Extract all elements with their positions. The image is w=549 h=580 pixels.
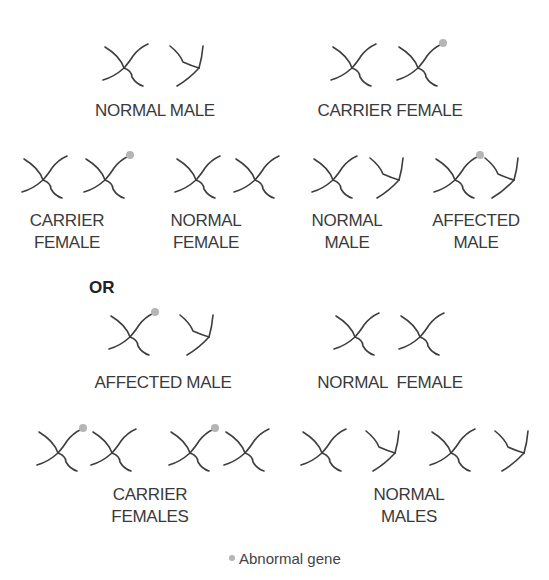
chromatid-arm: [399, 337, 420, 349]
label-line: AFFECTED MALE: [95, 373, 232, 392]
chromatid-arm: [395, 431, 399, 453]
chromatid-arm: [199, 46, 203, 68]
chromatid-arm: [334, 337, 355, 349]
chromatid-arm: [434, 180, 455, 192]
chromatid-arm: [418, 68, 437, 86]
chromatid-arm: [43, 156, 67, 180]
abnormal-gene-marker: [126, 151, 134, 159]
chromosome-group-top-right: [331, 39, 447, 86]
chromosome-group-row2-1: [22, 151, 134, 198]
x-chromosome: [175, 156, 220, 198]
label-carrier-female-parent: CARRIER FEMALE: [317, 100, 462, 122]
chromatid-arm: [109, 337, 130, 349]
abnormal-gene-dot-icon: [229, 555, 235, 561]
label-normal-male-child: NORMAL MALE: [312, 210, 383, 254]
abnormal-gene-marker: [151, 308, 159, 316]
label-line: CARRIER: [111, 484, 188, 506]
chromatid-arm: [355, 313, 379, 337]
x-chromosome: [334, 313, 379, 355]
or-label: OR: [89, 278, 115, 298]
label-normal-males: NORMAL MALES: [374, 484, 445, 528]
chromatid-arm: [514, 158, 518, 180]
label-affected-male-parent: AFFECTED MALE: [95, 372, 232, 394]
chromatid-arm: [303, 432, 322, 453]
chromatid-arm: [124, 68, 143, 86]
x-chromosome-abnormal: [84, 151, 134, 198]
chromatid-arm: [130, 337, 149, 355]
chromosome-group-row2-4: [434, 151, 518, 198]
label-affected-male-child: AFFECTED MALE: [432, 210, 519, 254]
x-chromosome-abnormal: [434, 151, 484, 198]
inheritance-diagram: [0, 0, 549, 580]
x-chromosome-abnormal: [397, 39, 447, 86]
x-chromosome: [312, 156, 357, 198]
y-chromosome: [366, 431, 399, 471]
x-chromosome-abnormal: [37, 424, 87, 471]
chromatid-arm: [103, 68, 124, 80]
chromatid-arm: [355, 337, 374, 355]
chromatid-arm: [130, 313, 154, 337]
chromatid-arm: [234, 180, 255, 192]
label-line: NORMAL: [312, 210, 383, 232]
chromatid-arm: [22, 180, 43, 192]
chromatid-arm: [399, 47, 418, 68]
x-chromosome: [22, 156, 67, 198]
chromatid-arm: [187, 337, 209, 355]
legend: Abnormal gene: [229, 550, 341, 567]
chromosome-group-row3-left: [109, 308, 213, 355]
chromatid-arm: [112, 453, 131, 471]
chromatid-arm: [196, 156, 220, 180]
chromatid-arm: [196, 180, 215, 198]
label-normal-male-parent: NORMAL MALE: [95, 100, 215, 122]
label-line: FEMALE: [171, 232, 242, 254]
y-chromosome: [485, 158, 518, 198]
chromatid-arm: [105, 156, 129, 180]
label-line: MALE: [312, 232, 383, 254]
chromosome-group-top-left: [103, 44, 203, 86]
chromatid-arm: [175, 180, 196, 192]
chromatid-arm: [399, 158, 403, 180]
chromatid-arm: [451, 453, 470, 471]
label-carrier-female-child: CARRIER FEMALE: [30, 210, 104, 254]
x-chromosome-abnormal: [169, 424, 219, 471]
chromatid-arm: [485, 158, 514, 180]
x-chromosome: [224, 429, 269, 471]
chromatid-arm: [37, 453, 58, 465]
x-chromosome: [91, 429, 136, 471]
label-line: FEMALE: [30, 232, 104, 254]
chromatid-arm: [366, 431, 395, 453]
chromatid-arm: [502, 453, 524, 471]
chromatid-arm: [171, 432, 190, 453]
chromatid-arm: [430, 453, 451, 465]
label-line: CARRIER FEMALE: [317, 101, 462, 120]
chromatid-arm: [331, 68, 352, 80]
chromatid-arm: [124, 44, 148, 68]
chromatid-arm: [370, 158, 399, 180]
chromatid-arm: [180, 315, 209, 337]
x-chromosome: [103, 44, 148, 86]
x-chromosome: [399, 313, 444, 355]
chromatid-arm: [170, 46, 199, 68]
label-line: NORMAL MALE: [95, 101, 215, 120]
chromatid-arm: [524, 431, 528, 453]
x-chromosome: [234, 156, 279, 198]
chromatid-arm: [373, 453, 395, 471]
chromatid-arm: [177, 68, 199, 86]
chromatid-arm: [224, 453, 245, 465]
chromatid-arm: [84, 180, 105, 192]
y-chromosome: [370, 158, 403, 198]
chromatid-arm: [333, 180, 352, 198]
y-chromosome: [170, 46, 203, 86]
chromatid-arm: [226, 432, 245, 453]
chromatid-arm: [314, 159, 333, 180]
chromatid-arm: [105, 180, 124, 198]
chromatid-arm: [190, 429, 214, 453]
chromatid-arm: [436, 159, 455, 180]
chromatid-arm: [333, 156, 357, 180]
chromosome-group-row2-3: [312, 156, 403, 198]
x-chromosome: [301, 429, 346, 471]
chromatid-arm: [432, 432, 451, 453]
chromosome-group-row4-left: [37, 424, 269, 471]
chromatid-arm: [455, 180, 474, 198]
chromosome-group-row4-right: [301, 429, 528, 471]
